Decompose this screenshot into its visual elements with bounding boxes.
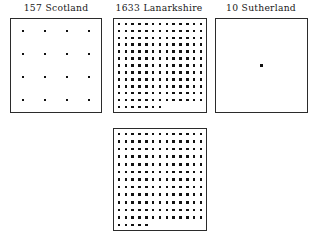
dot bbox=[125, 99, 128, 102]
panel-lanarkshire-count: 1633 bbox=[115, 2, 140, 13]
dot bbox=[131, 106, 134, 109]
dot bbox=[200, 23, 203, 26]
dot bbox=[193, 201, 196, 204]
dot bbox=[138, 171, 141, 174]
dot bbox=[138, 140, 141, 143]
dot bbox=[179, 186, 182, 189]
dot bbox=[179, 85, 182, 88]
dot bbox=[152, 78, 155, 81]
dot bbox=[131, 37, 134, 40]
dot bbox=[125, 133, 128, 136]
dot bbox=[172, 99, 175, 102]
dot bbox=[172, 57, 175, 60]
dot bbox=[172, 30, 175, 33]
dot bbox=[138, 133, 141, 136]
dot bbox=[186, 23, 189, 26]
dot bbox=[200, 99, 203, 102]
dot bbox=[145, 85, 148, 88]
dot bbox=[186, 37, 189, 40]
dot bbox=[145, 92, 148, 95]
dot bbox=[200, 78, 203, 81]
dot bbox=[159, 99, 162, 102]
dot bbox=[159, 92, 162, 95]
dot bbox=[125, 178, 128, 181]
dot bbox=[200, 216, 203, 219]
dot bbox=[172, 163, 175, 166]
dot bbox=[138, 57, 141, 60]
dot bbox=[166, 201, 169, 204]
dot bbox=[131, 193, 134, 196]
dot bbox=[125, 37, 128, 40]
dot bbox=[186, 57, 189, 60]
dot bbox=[200, 64, 203, 67]
dot bbox=[118, 37, 121, 40]
dot bbox=[138, 92, 141, 95]
dot bbox=[152, 163, 155, 166]
dot bbox=[145, 43, 148, 46]
dot bbox=[186, 201, 189, 204]
dot bbox=[125, 216, 128, 219]
dot bbox=[159, 64, 162, 67]
dot bbox=[118, 171, 121, 174]
dot bbox=[166, 30, 169, 33]
dot bbox=[159, 30, 162, 33]
dot-quantity-figure: 157 Scotland 1633 Lanarkshire 10 Sutherl… bbox=[0, 0, 316, 237]
dot bbox=[125, 193, 128, 196]
dot bbox=[193, 37, 196, 40]
dot bbox=[200, 178, 203, 181]
dot bbox=[200, 50, 203, 53]
dot bbox=[44, 99, 47, 102]
dot bbox=[125, 155, 128, 158]
dot bbox=[166, 186, 169, 189]
dot bbox=[186, 30, 189, 33]
dot bbox=[159, 186, 162, 189]
dot bbox=[118, 209, 121, 212]
dot bbox=[145, 209, 148, 212]
dot bbox=[88, 30, 91, 33]
dot bbox=[131, 30, 134, 33]
dot bbox=[166, 92, 169, 95]
dot bbox=[145, 155, 148, 158]
dot bbox=[118, 30, 121, 33]
dot bbox=[138, 186, 141, 189]
dot bbox=[179, 23, 182, 26]
dot bbox=[179, 133, 182, 136]
dot bbox=[159, 133, 162, 136]
dot bbox=[193, 171, 196, 174]
dot bbox=[138, 50, 141, 53]
dot bbox=[193, 92, 196, 95]
dot bbox=[172, 155, 175, 158]
dot bbox=[166, 148, 169, 151]
dot bbox=[118, 57, 121, 60]
dot bbox=[152, 178, 155, 181]
dot bbox=[193, 71, 196, 74]
panel-lanarkshire-label: 1633 Lanarkshire bbox=[110, 2, 208, 13]
dot bbox=[131, 57, 134, 60]
panel-sutherland-region: Sutherland bbox=[242, 2, 296, 13]
dot bbox=[131, 155, 134, 158]
dot bbox=[118, 224, 121, 227]
dot bbox=[179, 37, 182, 40]
dot bbox=[159, 193, 162, 196]
dot bbox=[145, 30, 148, 33]
dot bbox=[172, 133, 175, 136]
dot bbox=[152, 23, 155, 26]
dot bbox=[125, 50, 128, 53]
dot bbox=[166, 133, 169, 136]
dot bbox=[200, 148, 203, 151]
dot bbox=[118, 71, 121, 74]
dot bbox=[152, 193, 155, 196]
dot bbox=[159, 171, 162, 174]
panel-scotland-count: 157 bbox=[24, 2, 43, 13]
dot bbox=[125, 163, 128, 166]
dot bbox=[145, 193, 148, 196]
dot bbox=[159, 140, 162, 143]
dot bbox=[186, 163, 189, 166]
dot bbox=[159, 43, 162, 46]
dot bbox=[260, 64, 263, 67]
dot bbox=[179, 201, 182, 204]
dot bbox=[131, 171, 134, 174]
dot bbox=[152, 99, 155, 102]
dot bbox=[172, 78, 175, 81]
dot bbox=[193, 193, 196, 196]
